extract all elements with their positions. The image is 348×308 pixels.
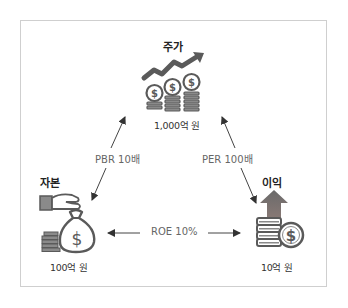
earnings-title: 이익 bbox=[262, 174, 282, 190]
svg-text:$: $ bbox=[72, 229, 83, 249]
stock-growth-coins-icon: $ $ $ bbox=[140, 52, 212, 112]
capital-title: 자본 bbox=[40, 174, 60, 190]
per-label: PER 100배 bbox=[200, 151, 255, 166]
capital-value: 100억 원 bbox=[50, 260, 87, 274]
svg-text:$: $ bbox=[169, 82, 176, 93]
per-arrow-upper bbox=[222, 117, 235, 148]
pbr-arrow-upper bbox=[111, 117, 125, 148]
pbr-label: PBR 10배 bbox=[93, 151, 142, 166]
stock-price-value: 1,000억 원 bbox=[154, 118, 200, 132]
svg-text:$: $ bbox=[151, 88, 158, 99]
coins-up-arrow-icon: $ bbox=[254, 190, 310, 252]
svg-text:$: $ bbox=[188, 77, 195, 88]
roe-label: ROE 10% bbox=[149, 226, 200, 237]
earnings-value: 10억 원 bbox=[261, 260, 293, 274]
hand-money-bag-icon: $ bbox=[38, 192, 102, 254]
svg-text:$: $ bbox=[286, 227, 296, 245]
